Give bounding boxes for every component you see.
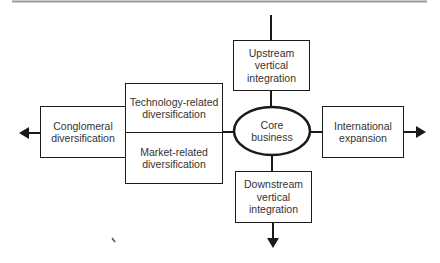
conglomeral-line-2: diversification <box>51 132 115 145</box>
upstream-line-1: Upstream <box>249 47 295 60</box>
technology-line-2: diversification <box>142 108 206 121</box>
conglomeral-label: Conglomeral diversification <box>41 107 125 157</box>
downstream-line-3: integration <box>249 203 298 216</box>
arrow-right-icon <box>416 126 426 138</box>
downstream-line-1: Downstream <box>244 178 303 191</box>
downstream-label: Downstream vertical integration <box>236 172 311 222</box>
core-label: Core business <box>236 110 308 152</box>
core-line-2: business <box>251 131 292 144</box>
upstream-line-3: integration <box>247 72 296 85</box>
upstream-label: Upstream vertical integration <box>234 41 309 90</box>
upstream-line-2: vertical <box>255 59 288 72</box>
technology-label: Technology-related diversification <box>126 84 222 132</box>
international-line-1: International <box>334 120 392 133</box>
scan-mark <box>112 238 115 242</box>
international-label: International expansion <box>323 107 403 157</box>
downstream-line-2: vertical <box>257 191 290 204</box>
technology-line-1: Technology-related <box>130 96 219 109</box>
arrow-left-icon <box>19 127 29 139</box>
core-line-1: Core <box>261 119 284 132</box>
market-label: Market-related diversification <box>126 133 222 183</box>
market-line-2: diversification <box>142 158 206 171</box>
market-line-1: Market-related <box>140 146 208 159</box>
international-line-2: expansion <box>339 132 387 145</box>
arrow-down-icon <box>267 238 279 248</box>
conglomeral-line-1: Conglomeral <box>53 120 113 133</box>
